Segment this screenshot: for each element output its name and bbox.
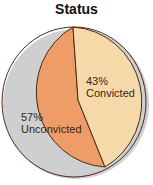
convicted-name: Convicted bbox=[86, 87, 135, 99]
unconvicted-name: Unconvicted bbox=[21, 123, 82, 135]
unconvicted-percent: 57% bbox=[21, 111, 82, 123]
label-convicted: 43% Convicted bbox=[86, 75, 135, 99]
convicted-percent: 43% bbox=[86, 75, 135, 87]
label-unconvicted: 57% Unconvicted bbox=[21, 111, 82, 135]
